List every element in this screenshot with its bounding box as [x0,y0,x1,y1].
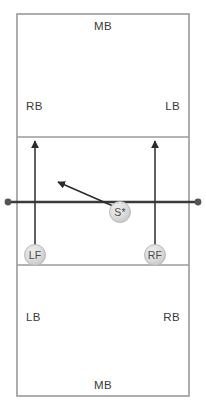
volleyball-court-diagram: MB RB LB LB RB MB S* LF RF [0,0,206,411]
zone-label-near-right-back: RB [163,311,180,323]
player-token-left-front[interactable]: LF [25,245,46,266]
court-boundary [17,14,189,396]
setter-token-label: S* [114,206,126,218]
zone-label-near-left-back: LB [26,311,41,323]
zone-label-near-middle-back: MB [94,379,112,391]
player-token-setter[interactable]: S* [110,202,131,223]
right-front-token-label: RF [148,249,162,261]
zone-label-far-left-back: LB [165,100,180,112]
net-post-right-icon [195,199,202,206]
net-post-left-icon [5,199,12,206]
zone-label-far-right-back: RB [26,100,43,112]
zone-label-far-middle-back: MB [94,20,112,32]
left-front-token-label: LF [29,249,42,261]
court-canvas: MB RB LB LB RB MB S* LF RF [0,0,206,411]
player-token-right-front[interactable]: RF [145,245,166,266]
